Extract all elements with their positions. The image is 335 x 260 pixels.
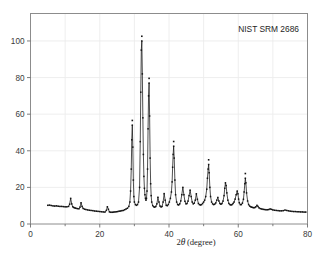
peak-top-marker (141, 35, 143, 37)
y-tick-label: 100 (11, 37, 25, 46)
peak-top-marker (173, 141, 175, 143)
peak-top-marker (245, 173, 247, 175)
x-tick-label: 80 (303, 230, 313, 239)
xrd-figure: 020406080 020406080100 2θ(degree) NIST S… (0, 0, 335, 260)
x-tick-label: 60 (234, 230, 244, 239)
peak-top-marker (148, 78, 150, 80)
xrd-plot-svg: 020406080 020406080100 2θ(degree) NIST S… (0, 0, 335, 260)
y-tick-label: 40 (15, 147, 25, 156)
y-tick-label: 0 (20, 220, 25, 229)
y-tick-label: 20 (15, 183, 25, 192)
peak-top-marker (132, 120, 134, 122)
x-tick-label: 0 (28, 230, 33, 239)
x-axis-title-theta: θ (181, 237, 186, 247)
x-axis-title-unit: (degree) (187, 237, 216, 247)
y-tick-label: 80 (15, 74, 25, 83)
y-tick-label: 60 (15, 110, 25, 119)
x-tick-label: 20 (95, 230, 105, 239)
sample-annotation-label: NIST SRM 2686 (238, 24, 299, 34)
x-axis-title: 2θ(degree) (176, 237, 215, 247)
figure-background (0, 0, 335, 260)
peak-top-marker (208, 159, 210, 161)
x-tick-label: 40 (164, 230, 174, 239)
